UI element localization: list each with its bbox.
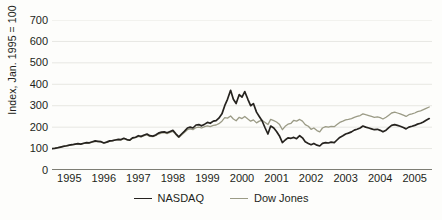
series-line-nasdaq: [52, 90, 429, 148]
x-tick-label: 2001: [264, 172, 288, 184]
plot-area: [52, 20, 432, 170]
x-tick-label: 1999: [195, 172, 219, 184]
x-tick-label: 2000: [230, 172, 254, 184]
y-tick-label: 0: [2, 165, 48, 176]
y-axis-tick-labels: 0100200300400500600700: [0, 0, 48, 180]
chart-legend: NASDAQDow Jones: [0, 192, 442, 204]
legend-label: NASDAQ: [158, 192, 204, 204]
legend-label: Dow Jones: [254, 192, 308, 204]
y-tick-label: 700: [2, 15, 48, 26]
y-tick-label: 600: [2, 36, 48, 47]
x-tick-label: 1996: [92, 172, 116, 184]
line-chart: Index, Jan. 1995 = 100 01002003004005006…: [0, 0, 442, 220]
legend-item[interactable]: NASDAQ: [134, 192, 204, 204]
legend-item[interactable]: Dow Jones: [230, 192, 308, 204]
x-tick-label: 2002: [299, 172, 323, 184]
series-line-dow-jones: [52, 107, 429, 149]
y-tick-label: 200: [2, 122, 48, 133]
legend-line-swatch-icon: [134, 198, 152, 199]
x-tick-label: 2004: [368, 172, 392, 184]
x-tick-label: 1995: [57, 172, 81, 184]
y-tick-label: 500: [2, 57, 48, 68]
x-axis-tick-labels: 1995199619971998199920002001200220032004…: [52, 172, 432, 188]
x-tick-label: 2003: [333, 172, 357, 184]
y-tick-label: 100: [2, 143, 48, 154]
x-tick-label: 2005: [402, 172, 426, 184]
x-tick-label: 1997: [126, 172, 150, 184]
x-tick-label: 1998: [161, 172, 185, 184]
y-tick-label: 300: [2, 100, 48, 111]
y-tick-label: 400: [2, 79, 48, 90]
plot-svg: [52, 20, 432, 170]
legend-line-swatch-icon: [230, 198, 248, 199]
